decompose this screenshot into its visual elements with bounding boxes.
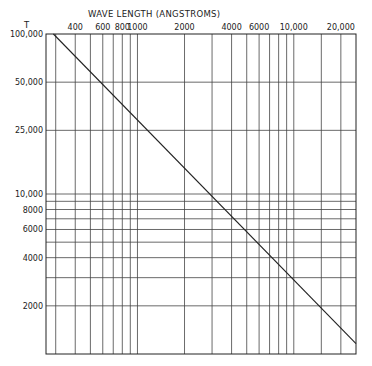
- x-tick-labels: 400600800100020004000600010,00020,000: [68, 23, 355, 32]
- x-tick-label: 400: [68, 23, 83, 32]
- series: [53, 34, 356, 344]
- y-tick-label: 6000: [23, 225, 43, 234]
- x-tick-label: 2000: [174, 23, 194, 32]
- grid: [46, 34, 356, 354]
- x-tick-label: 10,000: [280, 23, 308, 32]
- y-tick-label: 8000: [23, 206, 43, 215]
- x-tick-label: 4000: [221, 23, 241, 32]
- y-tick-label: 10,000: [15, 190, 43, 199]
- chart-title: WAVE LENGTH (ANGSTROMS): [88, 9, 220, 19]
- wien-chart: WAVE LENGTH (ANGSTROMS) T 40060080010002…: [0, 0, 372, 366]
- y-tick-label: 50,000: [15, 78, 43, 87]
- x-tick-label: 20,000: [327, 23, 355, 32]
- y-tick-label: 100,000: [10, 30, 43, 39]
- y-tick-label: 25,000: [15, 126, 43, 135]
- y-tick-labels: 100,00050,00025,00010,000800060004000200…: [10, 30, 43, 311]
- x-tick-label: 6000: [249, 23, 269, 32]
- series-line: [53, 34, 356, 344]
- y-tick-label: 2000: [23, 302, 43, 311]
- y-tick-label: 4000: [23, 254, 43, 263]
- x-tick-label: 1000: [127, 23, 147, 32]
- y-axis-label: T: [23, 20, 30, 30]
- x-tick-label: 600: [95, 23, 110, 32]
